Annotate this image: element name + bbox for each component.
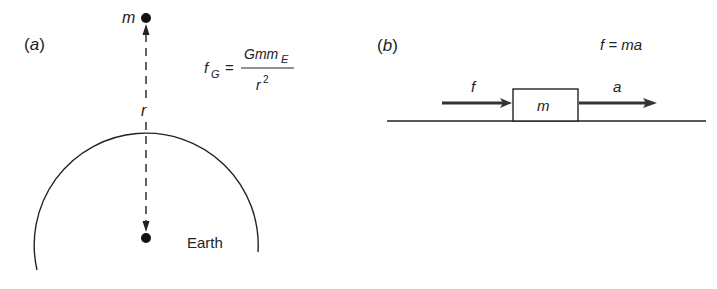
gravity-formula: f G = Gmm E r 2 [204, 46, 294, 93]
mass-label: m [122, 9, 135, 26]
block-label: m [537, 97, 550, 114]
formula-denominator-sup: 2 [263, 74, 269, 85]
distance-label: r [141, 102, 147, 119]
formula-lhs: f [204, 59, 210, 76]
earth-center-dot [141, 233, 151, 243]
mass-dot [141, 13, 151, 23]
arrow-down-icon [143, 221, 150, 232]
formula-lhs-sub: G [211, 68, 220, 80]
earth-label: Earth [187, 234, 223, 251]
accel-label: a [613, 78, 621, 95]
panel-a: (a) m r Earth f G = Gmm E r 2 [24, 9, 294, 270]
physics-diagram: (a) m r Earth f G = Gmm E r 2 (b) f = ma [0, 0, 717, 289]
force-label: f [471, 78, 477, 95]
panel-a-label: (a) [24, 35, 45, 54]
formula-numerator-sub: E [281, 53, 289, 65]
formula-numerator: Gmm [244, 46, 279, 62]
arrow-up-icon [143, 24, 150, 35]
formula-denominator: r [256, 77, 262, 93]
panel-b-label: (b) [377, 36, 398, 55]
panel-b: (b) f = ma m f a [377, 36, 706, 121]
newton-formula: f = ma [600, 36, 642, 53]
formula-equals: = [225, 59, 234, 76]
